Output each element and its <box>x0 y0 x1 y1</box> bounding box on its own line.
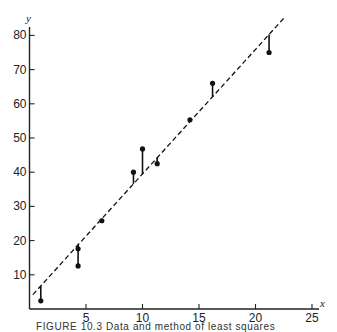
data-point <box>210 81 215 86</box>
data-point <box>155 161 160 166</box>
data-point <box>187 117 192 122</box>
y-tick-label: 70 <box>13 63 27 77</box>
figure-caption: FIGURE 10.3 Data and method of least squ… <box>36 321 275 332</box>
residual-segments <box>41 34 269 300</box>
data-point <box>75 263 80 268</box>
data-point <box>99 218 104 223</box>
x-tick-label: 25 <box>305 311 319 325</box>
y-tick-label: 80 <box>13 28 27 42</box>
y-tick-label: 60 <box>13 97 27 111</box>
data-point <box>140 146 145 151</box>
data-point <box>131 170 136 175</box>
y-tick-label: 40 <box>13 165 27 179</box>
axes: 1020304050607080510152025 <box>13 27 319 325</box>
data-point <box>38 298 43 303</box>
y-tick-label: 20 <box>13 234 27 248</box>
y-tick-label: 50 <box>13 131 27 145</box>
y-tick-label: 30 <box>13 199 27 213</box>
data-point <box>266 50 271 55</box>
data-point <box>75 246 80 251</box>
fitted-line <box>33 18 284 294</box>
y-axis-label: y <box>25 12 31 24</box>
y-tick-label: 10 <box>13 268 27 282</box>
data-points <box>38 50 271 303</box>
x-axis-label: x <box>319 297 325 309</box>
